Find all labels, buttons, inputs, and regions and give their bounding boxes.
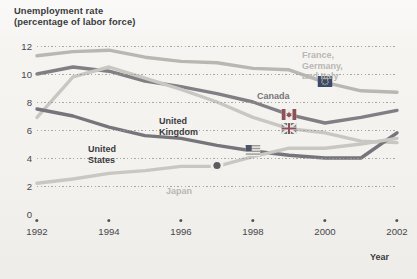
series-label-united-kingdom: UnitedKingdom — [159, 116, 198, 137]
series-label-line: States — [88, 155, 116, 166]
series-label-line: Japan — [166, 186, 192, 197]
series-label-line: United — [88, 144, 116, 155]
series-label-line: United — [159, 116, 198, 127]
x-axis-tick-label: 1992 — [26, 226, 47, 237]
x-axis-tick-mark — [323, 219, 326, 222]
series-label-line: Canada — [257, 91, 290, 102]
gridline — [37, 46, 397, 47]
gridline — [37, 102, 397, 103]
x-axis-tick-label: 1998 — [242, 226, 263, 237]
series-label-japan: Japan — [166, 186, 192, 197]
plot-area: 121086420199219941996199820002002 — [37, 46, 397, 214]
series-label-france-germany-and-italy: France,Germany,and Italy — [302, 50, 343, 82]
y-axis-tick-label: 6 — [27, 125, 32, 136]
x-axis-tick-mark — [35, 219, 38, 222]
x-axis-tick-label: 2000 — [314, 226, 335, 237]
series-label-united-states: UnitedStates — [88, 144, 116, 165]
chart-title-line-2: (percentage of labor force) — [14, 16, 135, 27]
y-axis-tick-label: 8 — [27, 97, 32, 108]
gridline — [37, 74, 397, 75]
x-axis-label: Year — [370, 252, 389, 262]
x-axis-tick-label: 1994 — [98, 226, 119, 237]
x-axis-tick-mark — [251, 219, 254, 222]
series-label-line: and Italy — [302, 71, 343, 82]
y-axis-tick-label: 0 — [27, 209, 32, 220]
y-axis-tick-label: 4 — [27, 153, 32, 164]
uk-flag — [282, 120, 297, 138]
chart-title-line-1: Unemployment rate — [14, 5, 135, 16]
series-label-line: Kingdom — [159, 127, 198, 138]
series-line-canada — [37, 67, 397, 123]
chart-page: Unemployment rate (percentage of labor f… — [0, 0, 417, 279]
x-axis-tick-mark — [179, 219, 182, 222]
y-axis-tick-label: 2 — [27, 181, 32, 192]
series-label-line: France, — [302, 50, 343, 61]
series-line-united-kingdom — [37, 67, 397, 143]
x-axis-tick-mark — [395, 219, 398, 222]
gridline — [37, 130, 397, 131]
series-label-canada: Canada — [257, 91, 290, 102]
us-flag — [246, 142, 261, 160]
x-axis-tick-label: 2002 — [386, 226, 407, 237]
y-axis-tick-label: 10 — [21, 69, 32, 80]
gridline — [37, 186, 397, 187]
x-axis-tick-label: 1996 — [170, 226, 191, 237]
series-label-line: Germany, — [302, 61, 343, 72]
y-axis-tick-label: 12 — [21, 41, 32, 52]
x-axis-tick-mark — [107, 219, 110, 222]
chart-title: Unemployment rate (percentage of labor f… — [14, 5, 135, 28]
gridline — [37, 214, 397, 215]
japan-flag — [211, 157, 224, 175]
